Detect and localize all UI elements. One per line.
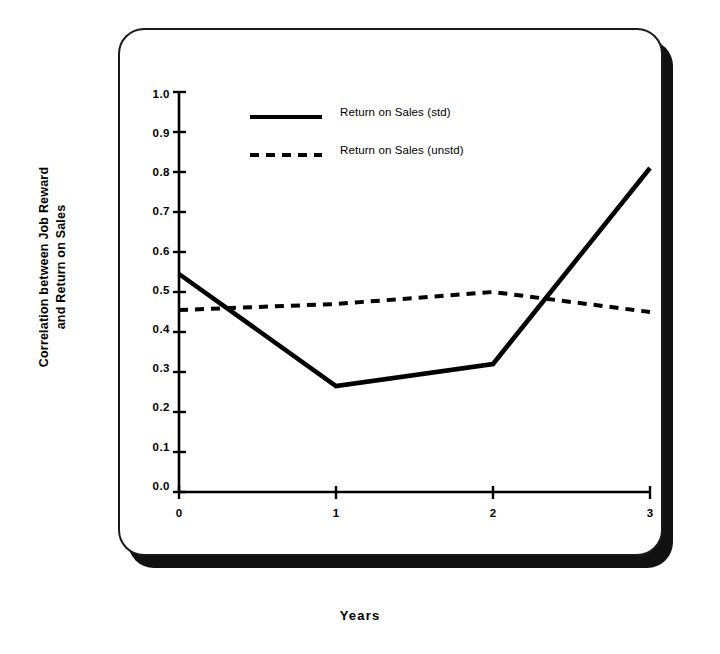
y-tick-label-0.5: 0.5 <box>136 284 170 296</box>
x-tick-label-2: 2 <box>483 507 503 519</box>
y-tick-label-0.4: 0.4 <box>136 323 170 335</box>
y-tick-label-0.3: 0.3 <box>136 362 170 374</box>
x-tick-label-3: 3 <box>640 507 660 519</box>
y-tick-label-0.8: 0.8 <box>136 166 170 178</box>
y-tick-label-0.6: 0.6 <box>136 245 170 257</box>
y-tick-label-1.0: 1.0 <box>136 88 170 100</box>
x-tick-label-1: 1 <box>326 507 346 519</box>
legend-key-solid-line <box>248 112 324 122</box>
y-tick-label-0.7: 0.7 <box>136 205 170 217</box>
y-tick-label-0.0: 0.0 <box>136 480 170 492</box>
legend-entry-std: Return on Sales (std) <box>248 106 508 144</box>
x-axis-label: Years <box>0 608 720 623</box>
y-axis-label: Correlation between Job Reward and Retur… <box>36 117 70 417</box>
y-axis-label-line2: and Return on Sales <box>53 117 70 417</box>
y-tick-label-0.1: 0.1 <box>136 441 170 453</box>
legend-key-dashed-line <box>248 150 324 160</box>
y-tick-label-0.2: 0.2 <box>136 401 170 413</box>
y-tick-label-0.9: 0.9 <box>136 127 170 139</box>
legend-entry-unstd: Return on Sales (unstd) <box>248 144 508 182</box>
y-axis-label-line1: Correlation between Job Reward <box>36 117 53 417</box>
legend-label-std: Return on Sales (std) <box>340 106 451 118</box>
legend-label-unstd: Return on Sales (unstd) <box>340 144 464 156</box>
x-tick-label-0: 0 <box>169 507 189 519</box>
chart-legend: Return on Sales (std) Return on Sales (u… <box>248 106 508 182</box>
chart-figure: Correlation between Job Reward and Retur… <box>0 0 720 654</box>
